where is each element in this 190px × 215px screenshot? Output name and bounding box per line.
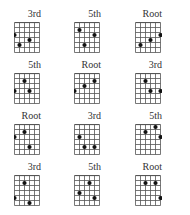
finger-dot [77, 191, 81, 195]
chord-tone-label: 3rd [149, 60, 162, 70]
finger-dot [138, 43, 142, 47]
chord-tone-label: Root [82, 60, 101, 70]
chord-diagram: 3rd [14, 162, 64, 212]
fretboard-grid [14, 175, 41, 207]
chord-diagram: 3rd [74, 111, 124, 161]
finger-dot [27, 145, 31, 149]
finger-dot [158, 89, 162, 93]
finger-dot [158, 135, 162, 139]
chord-tone-label: 5th [88, 9, 101, 19]
chord-diagram: 5th [74, 162, 124, 212]
finger-dot [27, 201, 31, 205]
finger-dot [22, 181, 26, 185]
finger-dot [153, 181, 157, 185]
chord-diagram: Root [135, 9, 185, 59]
finger-dot [82, 43, 86, 47]
chord-tone-label: 5th [88, 162, 101, 172]
chord-diagram: Root [135, 162, 185, 212]
finger-dot [14, 135, 17, 139]
finger-dot [148, 89, 152, 93]
finger-dot [143, 79, 147, 83]
finger-dot [22, 79, 26, 83]
fretboard-grid [135, 124, 162, 156]
fretboard-grid [14, 73, 41, 105]
chord-tone-label: Root [143, 162, 162, 172]
finger-dot [92, 196, 96, 200]
finger-dot [92, 145, 96, 149]
finger-dot [143, 181, 147, 185]
chord-tone-label: 5th [28, 60, 41, 70]
finger-dot [92, 79, 96, 83]
fretboard-grid [135, 73, 162, 105]
chord-diagram: Root [74, 60, 124, 110]
chord-diagram: 5th [135, 111, 185, 161]
finger-dot [143, 130, 147, 134]
fretboard-grid [14, 22, 41, 54]
finger-dot [14, 89, 17, 93]
finger-dot [14, 196, 17, 200]
finger-dot [82, 145, 86, 149]
chord-diagram: 3rd [14, 9, 64, 59]
finger-dot [82, 84, 86, 88]
chord-diagram: 5th [74, 9, 124, 59]
fretboard-grid [74, 73, 101, 105]
chord-tone-label: 3rd [88, 111, 101, 121]
chord-diagram: 3rd [135, 60, 185, 110]
chord-tone-label: Root [22, 111, 41, 121]
finger-dot [158, 196, 162, 200]
fretboard-grid [74, 175, 101, 207]
finger-dot [27, 38, 31, 42]
finger-dot [74, 89, 77, 93]
chord-tone-label: 3rd [28, 9, 41, 19]
chord-tone-label: Root [143, 9, 162, 19]
finger-dot [92, 33, 96, 37]
chord-tone-label: 3rd [28, 162, 41, 172]
finger-dot [148, 38, 152, 42]
finger-dot [27, 89, 31, 93]
finger-dot [77, 28, 81, 32]
finger-dot [87, 181, 91, 185]
chord-tone-label: 5th [149, 111, 162, 121]
fretboard-grid [74, 22, 101, 54]
fretboard-grid [14, 124, 41, 156]
finger-dot [158, 33, 162, 37]
finger-dot [153, 125, 157, 129]
chord-diagram: Root [14, 111, 64, 161]
finger-dot [17, 43, 21, 47]
fretboard-grid [135, 22, 162, 54]
finger-dot [77, 135, 81, 139]
chord-diagram: 5th [14, 60, 64, 110]
finger-dot [14, 33, 17, 37]
finger-dot [22, 130, 26, 134]
fretboard-grid [135, 175, 162, 207]
fretboard-grid [74, 124, 101, 156]
